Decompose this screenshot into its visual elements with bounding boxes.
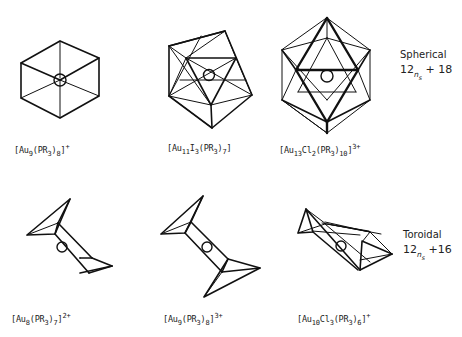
structure-au10 [298,209,392,270]
edge [313,232,358,270]
edge [282,100,327,133]
structure-au9-toroidal [161,196,260,297]
charge: + [65,143,69,151]
edge [27,223,58,235]
ligand: (PR [199,143,214,153]
charge: 2+ [62,312,70,320]
class-name: Spherical [400,49,446,60]
formula-au13: [Au13Cl2(PR3)10]3+ [279,143,360,158]
edge [306,209,360,270]
edge [358,70,370,100]
metal-count: 11 [182,148,190,156]
central-atom [321,70,333,82]
metal-symbol: Au [16,314,26,324]
metal-symbol: Au [19,145,29,155]
ligand: (PR [30,314,45,324]
structure-au9-spherical [21,41,99,118]
edge [282,38,327,50]
outer-hexagon [282,18,370,133]
ligand-count: 8 [56,150,60,158]
ligand: (PR [33,145,48,155]
edge [92,258,112,266]
charge: 3+ [352,143,360,151]
charge: 3+ [214,312,222,320]
rule-variable-subscript: s [422,254,425,261]
edge [236,58,252,95]
class-label-spherical: Spherical 12ns + 18 [400,49,452,81]
edge [58,199,70,223]
metal-symbol: Au [168,314,178,324]
ligand-subscript: 3 [330,150,334,158]
formula-au10: [Au10Cl3(PR3)6]+ [297,312,370,327]
ligand-count: 10 [339,150,347,158]
edge [362,232,370,242]
edge [370,232,392,254]
edge [362,241,392,254]
formula-au9-toroidal: [Au9(PR3)8]3+ [163,312,222,327]
ligand-count: 8 [205,319,209,327]
edge [360,242,362,270]
edge [225,31,236,58]
edge [191,196,203,222]
halide-symbol: Cl [302,145,312,155]
edge [330,223,379,231]
edge [282,70,296,100]
edge [191,222,228,259]
rule-variable-subscript: s [419,74,422,81]
formula-au9-spherical: [Au9(PR3)8]+ [14,143,69,158]
ligand-count: 7 [53,319,57,327]
edge [312,231,360,235]
class-name: Toroidal [403,229,442,240]
charge: + [366,312,370,320]
edge [358,50,370,70]
edge [55,234,89,273]
ligand: (PR [316,145,331,155]
metal-symbol: Au [172,143,182,153]
edge [161,222,191,234]
metal-count: 10 [312,319,320,327]
lower-cap [204,259,260,297]
ligand: (PR [182,314,197,324]
structure-au11 [169,31,252,128]
ligand-count: 6 [357,319,361,327]
metal-symbol: Au [284,145,294,155]
structure-au8 [27,199,112,273]
ligand-subscript: 3 [45,319,49,327]
rule-base: 12 [400,63,414,76]
rule-offset: + 18 [426,63,453,76]
formula-au11: [Au11I3(PR3)7] [167,143,231,156]
cluster-structures-figure [0,0,462,337]
central-atom [202,242,212,252]
rule-offset: +16 [429,243,452,256]
rule-base: 12 [403,243,417,256]
metal-count: 13 [294,150,302,158]
edge [327,38,370,50]
formula-au8: [Au8(PR3)7]2+ [11,312,70,327]
edge [60,58,99,80]
metal-symbol: Au [302,314,312,324]
edge [169,46,186,58]
edge [327,18,358,70]
ligand-subscript: 3 [197,319,201,327]
edge [211,105,212,128]
ligand: (PR [334,314,349,324]
edge [185,233,222,272]
edge [58,223,92,258]
ligand-subscript: 3 [48,150,52,158]
electron-count-rule: 12ns + 18 [400,63,452,81]
edge [204,272,222,297]
structure-au13 [282,18,370,133]
edge [360,254,392,270]
ligand-subscript: 3 [348,319,352,327]
ligand-subscript: 3 [214,148,218,156]
class-label-toroidal: Toroidal 12ns +16 [403,229,452,261]
electron-count-rule: 12ns +16 [403,243,452,261]
halide-symbol: Cl [320,314,330,324]
ligand-count: 7 [222,148,226,156]
edge [296,18,327,70]
